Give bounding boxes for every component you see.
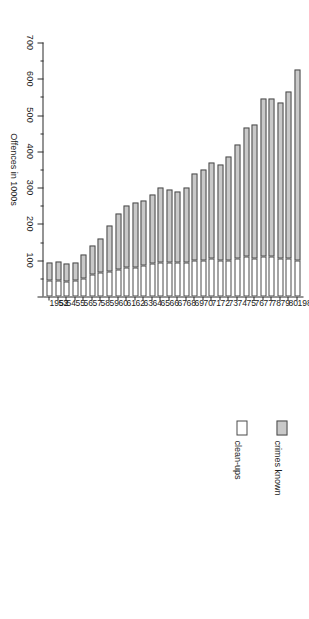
bar-segment-clean-ups bbox=[140, 265, 146, 296]
bar-segment-clean-ups bbox=[106, 271, 112, 296]
bar-segment-crimes-known bbox=[149, 194, 155, 263]
bar-row bbox=[80, 0, 86, 619]
bar-row bbox=[115, 0, 121, 619]
bar-row bbox=[149, 0, 155, 619]
bar-row bbox=[268, 0, 274, 619]
bar-row bbox=[294, 0, 300, 619]
bar-row bbox=[225, 0, 231, 619]
legend-label-crimes-known: crimes known bbox=[272, 440, 282, 495]
value-axis-major-tick bbox=[37, 260, 43, 261]
bar-row bbox=[89, 0, 95, 619]
bar-segment-clean-ups bbox=[166, 262, 172, 296]
bar-row bbox=[260, 0, 266, 619]
bar-row bbox=[208, 0, 214, 619]
value-axis-tick-label: 300 bbox=[24, 179, 34, 195]
bar-row bbox=[106, 0, 112, 619]
bar-segment-clean-ups bbox=[72, 280, 78, 296]
bar-row bbox=[174, 0, 180, 619]
bar-segment-crimes-known bbox=[63, 263, 69, 280]
value-axis-major-tick bbox=[37, 187, 43, 188]
bar-segment-clean-ups bbox=[149, 263, 155, 296]
bar-segment-clean-ups bbox=[123, 267, 129, 296]
bar-segment-clean-ups bbox=[174, 262, 180, 296]
value-axis-minor-tick bbox=[40, 169, 43, 170]
bar-row bbox=[97, 0, 103, 619]
bar-segment-crimes-known bbox=[277, 102, 283, 258]
bar-segment-crimes-known bbox=[191, 173, 197, 260]
bar-segment-crimes-known bbox=[243, 127, 249, 256]
bar-row bbox=[166, 0, 172, 619]
bar-row bbox=[157, 0, 163, 619]
bar-segment-clean-ups bbox=[285, 258, 291, 296]
value-axis-major-tick bbox=[37, 151, 43, 152]
bar-segment-crimes-known bbox=[140, 200, 146, 265]
bar-row bbox=[55, 0, 61, 619]
value-axis-major-tick bbox=[37, 223, 43, 224]
value-axis-title: Offences in 1000s bbox=[8, 42, 18, 296]
bar-row bbox=[72, 0, 78, 619]
bar-segment-crimes-known bbox=[115, 213, 121, 269]
bar-segment-clean-ups bbox=[268, 256, 274, 296]
bar-row bbox=[123, 0, 129, 619]
value-axis-minor-tick bbox=[40, 60, 43, 61]
bar-row bbox=[285, 0, 291, 619]
bar-segment-crimes-known bbox=[225, 156, 231, 259]
bar-row bbox=[200, 0, 206, 619]
value-axis-major-tick bbox=[37, 42, 43, 43]
bar-segment-clean-ups bbox=[46, 280, 52, 296]
value-axis-minor-tick bbox=[40, 205, 43, 206]
bar-segment-crimes-known bbox=[260, 98, 266, 256]
bar-row bbox=[183, 0, 189, 619]
bar-segment-clean-ups bbox=[183, 262, 189, 296]
bar-segment-clean-ups bbox=[277, 258, 283, 296]
value-axis-major-tick bbox=[37, 78, 43, 79]
bar-segment-clean-ups bbox=[294, 260, 300, 296]
bar-segment-clean-ups bbox=[132, 267, 138, 296]
bar-row bbox=[46, 0, 52, 619]
bar-segment-clean-ups bbox=[89, 274, 95, 296]
bar-segment-crimes-known bbox=[55, 261, 61, 280]
bar-segment-crimes-known bbox=[200, 169, 206, 260]
legend-swatch-clean-ups bbox=[236, 420, 247, 435]
value-axis-minor-tick bbox=[40, 96, 43, 97]
bar-segment-crimes-known bbox=[166, 189, 172, 262]
value-axis-tick-label: 600 bbox=[24, 70, 34, 86]
bar-segment-crimes-known bbox=[106, 225, 112, 270]
bar-segment-clean-ups bbox=[217, 260, 223, 296]
value-axis-tick-label: 500 bbox=[24, 107, 34, 123]
bar-row bbox=[234, 0, 240, 619]
bar-row bbox=[132, 0, 138, 619]
bar-segment-clean-ups bbox=[251, 258, 257, 296]
bar-segment-crimes-known bbox=[268, 98, 274, 256]
bar-segment-clean-ups bbox=[200, 260, 206, 296]
bar-segment-crimes-known bbox=[89, 245, 95, 274]
value-axis-minor-tick bbox=[40, 133, 43, 134]
bar-segment-clean-ups bbox=[55, 280, 61, 296]
bar-segment-clean-ups bbox=[234, 258, 240, 296]
bar-segment-crimes-known bbox=[157, 187, 163, 261]
bar-segment-crimes-known bbox=[208, 162, 214, 258]
bar-chart: 100200300400500600700 Offences in 1000s … bbox=[0, 0, 309, 619]
bar-segment-clean-ups bbox=[243, 256, 249, 296]
bar-segment-crimes-known bbox=[183, 187, 189, 261]
bar-segment-crimes-known bbox=[234, 144, 240, 258]
bar-segment-clean-ups bbox=[157, 262, 163, 296]
bar-row bbox=[191, 0, 197, 619]
rotated-figure-stage: 100200300400500600700 Offences in 1000s … bbox=[0, 0, 309, 619]
bar-segment-clean-ups bbox=[225, 260, 231, 296]
value-axis-minor-tick bbox=[40, 242, 43, 243]
legend-swatch-crimes-known bbox=[276, 420, 287, 435]
value-axis-major-tick bbox=[37, 115, 43, 116]
bar-segment-crimes-known bbox=[132, 202, 138, 267]
bar-segment-clean-ups bbox=[260, 256, 266, 296]
bar-segment-crimes-known bbox=[217, 164, 223, 260]
bar-row bbox=[243, 0, 249, 619]
bar-segment-crimes-known bbox=[80, 254, 86, 278]
value-axis-tick-label: 400 bbox=[24, 143, 34, 159]
bar-segment-crimes-known bbox=[251, 124, 257, 258]
bar-row bbox=[217, 0, 223, 619]
value-axis-minor-tick bbox=[40, 278, 43, 279]
bar-segment-clean-ups bbox=[191, 260, 197, 296]
value-axis-tick-label: 100 bbox=[24, 252, 34, 268]
bar-row bbox=[63, 0, 69, 619]
